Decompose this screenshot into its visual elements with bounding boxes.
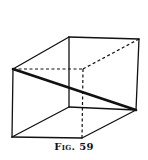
hidden-edge-front-right: [82, 69, 83, 138]
edge-bottom-left-depth: [12, 107, 69, 137]
figure-caption: Fig. 59: [0, 141, 148, 152]
edge-top-left-depth: [13, 37, 69, 69]
edge-back-top: [69, 37, 139, 39]
edge-back-right: [136, 39, 139, 110]
hidden-edge-top-right-depth: [83, 39, 139, 69]
box-diagram: [0, 0, 148, 160]
edge-front-left: [12, 69, 13, 137]
space-diagonal: [13, 69, 136, 110]
edge-bottom-right-depth: [82, 110, 136, 138]
edge-front-bottom: [12, 137, 82, 138]
